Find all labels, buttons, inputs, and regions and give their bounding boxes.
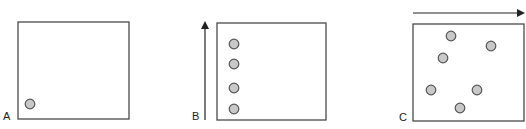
dot [472,85,482,95]
dot [229,83,239,93]
panel-label: B [192,110,199,122]
diagram-canvas: ABC [0,0,526,129]
dot [446,31,456,41]
panel-c: C [399,13,524,123]
dot [229,104,239,114]
panel-label: C [399,111,407,123]
dot [229,39,239,49]
dot [426,85,436,95]
dot [438,53,448,63]
dot [25,99,35,109]
panel-label: A [3,110,11,122]
panel-a: A [3,22,129,122]
panel-b: B [192,23,326,122]
dot [455,103,465,113]
panel-frame [413,24,524,121]
dot [486,41,496,51]
dot [229,59,239,69]
